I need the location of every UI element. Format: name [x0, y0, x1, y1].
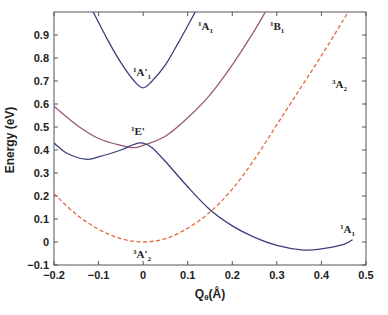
x-tick-label: 0.4: [314, 269, 330, 281]
energy-curve-chart: −0.100.10.20.30.40.50.60.70.80.9 −0.2−0.…: [0, 0, 388, 315]
label-3A2: 3A2: [332, 78, 347, 93]
y-tick-label: 0.4: [34, 144, 50, 156]
label-1A1-upper: 1A1: [198, 20, 213, 35]
curves: [54, 12, 353, 250]
y-tick-label: 0.7: [34, 75, 49, 87]
series-line-2: [54, 143, 353, 250]
y-axis-title: Energy (eV): [3, 107, 17, 174]
x-tick-labels: −0.2−0.100.10.20.30.40.5: [43, 269, 374, 281]
series-line-3: [54, 12, 348, 242]
y-tick-label: 0: [43, 236, 49, 248]
axis-ticks: [54, 12, 366, 265]
y-tick-label: 0.2: [34, 190, 49, 202]
x-tick-label: 0.3: [269, 269, 284, 281]
x-tick-label: 0.2: [225, 269, 240, 281]
plot-frame: [54, 12, 366, 265]
y-tick-label: 0.8: [34, 52, 49, 64]
y-tick-label: 0.9: [34, 29, 49, 41]
label-1A'1: 1A'1: [133, 66, 152, 81]
y-tick-label: 0.3: [34, 167, 49, 179]
label-1E': 1E': [131, 125, 145, 137]
x-tick-label: 0.5: [358, 269, 373, 281]
y-tick-labels: −0.100.10.20.30.40.50.60.70.80.9: [27, 29, 50, 271]
x-tick-label: −0.2: [43, 269, 65, 281]
y-tick-label: 0.1: [34, 213, 49, 225]
y-tick-label: 0.5: [34, 121, 49, 133]
x-tick-label: 0.1: [180, 269, 195, 281]
y-tick-label: 0.6: [34, 98, 49, 110]
label-1B1: 1B1: [270, 20, 285, 35]
label-3A'2: 3A'2: [133, 248, 152, 263]
series-line-1: [54, 12, 265, 148]
x-tick-label: 0: [140, 269, 146, 281]
x-axis-title: Qθ(Å): [195, 286, 225, 302]
label-1A1-lower: 1A1: [340, 223, 355, 238]
x-tick-label: −0.1: [88, 269, 110, 281]
